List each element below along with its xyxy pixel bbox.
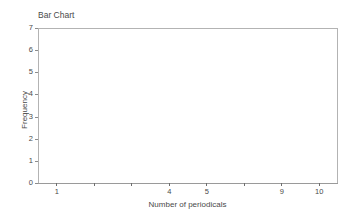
x-tick-label: 4 (167, 188, 171, 196)
chart-title: Bar Chart (38, 10, 74, 20)
y-tick-label: 3 (29, 113, 33, 121)
y-tick-label: 6 (29, 46, 33, 54)
x-tick-label: 1 (55, 188, 59, 196)
y-tick-label: 7 (29, 24, 33, 32)
y-tick-label: 0 (29, 179, 33, 187)
y-tick-label: 4 (29, 90, 33, 98)
y-tick-label: 5 (29, 68, 33, 76)
x-tick-label: 5 (205, 188, 209, 196)
bar-chart-figure: Bar Chart Frequency 01234567 145910 Numb… (0, 0, 345, 219)
x-axis-title: Number of periodicals (38, 200, 337, 209)
x-tick-label: 10 (315, 188, 323, 196)
y-tick-label: 2 (29, 135, 33, 143)
plot-area: 01234567 145910 (38, 28, 337, 183)
y-tick-label: 1 (29, 157, 33, 165)
x-tick-label: 9 (280, 188, 284, 196)
bars-layer (38, 28, 338, 184)
